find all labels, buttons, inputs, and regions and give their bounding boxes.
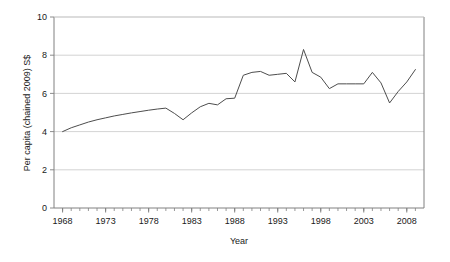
x-tick-label: 1973 [96, 216, 116, 226]
x-axis-label: Year [230, 236, 248, 246]
x-tick-label: 2003 [354, 216, 374, 226]
x-tick-label: 1988 [225, 216, 245, 226]
x-tick-label: 1968 [53, 216, 73, 226]
y-tick-label: 4 [42, 127, 47, 137]
chart-figure: 0246810 19681973197819831988199319982003… [0, 0, 450, 262]
x-tick-label: 1998 [311, 216, 331, 226]
y-tick-label: 10 [37, 12, 47, 22]
x-tick-label: 2008 [397, 216, 417, 226]
y-tick-label: 0 [42, 203, 47, 213]
x-tick-label: 1978 [139, 216, 159, 226]
y-tick-label: 6 [42, 89, 47, 99]
x-tick-label: 1983 [182, 216, 202, 226]
y-tick-label: 8 [42, 50, 47, 60]
line-chart: 0246810 19681973197819831988199319982003… [0, 0, 450, 262]
y-axis-label: Per capita (chained 2009) S$ [22, 55, 32, 172]
x-tick-label: 1993 [268, 216, 288, 226]
y-tick-label: 2 [42, 165, 47, 175]
